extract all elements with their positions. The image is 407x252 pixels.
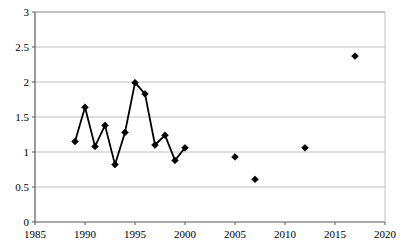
y-tick-label: 2.5 xyxy=(0,42,29,53)
y-tick-label: 3 xyxy=(0,7,29,18)
data-point-marker xyxy=(72,138,79,145)
y-tick-label: 1.5 xyxy=(0,112,29,123)
axis-ticks xyxy=(32,12,385,225)
x-tick-label: 1990 xyxy=(65,229,105,240)
chart-plot-area xyxy=(0,0,407,252)
data-point-marker xyxy=(102,122,109,129)
y-tick-label: 0 xyxy=(0,217,29,228)
y-tick-label: 1 xyxy=(0,147,29,158)
series-markers xyxy=(72,53,359,183)
data-point-marker xyxy=(82,104,89,111)
data-point-marker xyxy=(352,53,359,60)
y-tick-label: 2 xyxy=(0,77,29,88)
data-point-marker xyxy=(252,176,259,183)
x-tick-label: 2015 xyxy=(315,229,355,240)
gridlines xyxy=(35,12,385,187)
data-point-marker xyxy=(92,143,99,150)
x-tick-label: 1995 xyxy=(115,229,155,240)
chart-container: 00.511.522.53 19851990199520002005201020… xyxy=(0,0,407,252)
x-tick-label: 1985 xyxy=(15,229,55,240)
data-point-marker xyxy=(232,154,239,161)
y-tick-label: 0.5 xyxy=(0,182,29,193)
x-tick-label: 2000 xyxy=(165,229,205,240)
x-tick-label: 2020 xyxy=(365,229,405,240)
x-tick-label: 2010 xyxy=(265,229,305,240)
data-point-marker xyxy=(112,161,119,168)
data-point-marker xyxy=(122,129,129,136)
x-tick-label: 2005 xyxy=(215,229,255,240)
data-point-marker xyxy=(302,144,309,151)
